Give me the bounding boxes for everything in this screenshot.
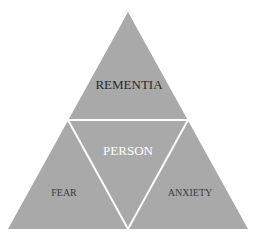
- section-label-bottom-right: ANXIETY: [168, 187, 212, 198]
- section-label-top: REMENTIA: [95, 77, 163, 92]
- section-label-center: PERSON: [103, 143, 153, 158]
- pyramid-diagram: REMENTIA PERSON FEAR ANXIETY: [0, 0, 258, 241]
- section-label-bottom-left: FEAR: [51, 187, 77, 198]
